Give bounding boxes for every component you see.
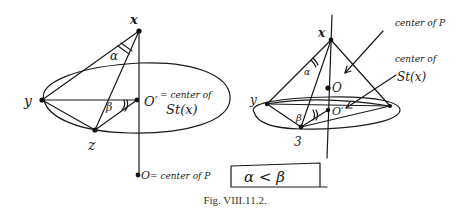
figure-caption: Fig. VIII.11.2. [0,194,470,206]
left-label-x: x [129,12,138,27]
left-point-y [39,97,44,102]
left-point-oprime [135,98,140,103]
left-oprime-note-1: = center of [160,90,213,100]
right-edge-x-z [301,40,331,127]
right-label-y: y [249,93,257,107]
boxed-inequality: α < β [231,163,327,187]
right-point-rim [388,104,392,108]
right-note-center-st-2: St(x) [397,70,426,84]
right-note-center-st-1: center of [395,54,438,64]
left-point-x [136,28,141,33]
right-point-z [299,125,304,130]
right-label-beta: β [295,112,302,123]
left-edge-x-z [95,31,139,130]
left-edge-y-z [42,100,95,130]
inequality-text: α < β [244,168,285,186]
left-o-note: = center of P [150,171,211,181]
right-point-oprime [326,108,330,112]
right-note-center-p: center of P [395,18,446,28]
right-beta-arc [313,110,315,120]
left-label-oprime: O′ [144,94,158,109]
right-label-oprime: O′ [332,105,344,118]
right-diagram: x y 3 α β O O′ center of P center of St(… [249,15,446,158]
right-label-x: x [317,26,326,40]
left-label-alpha: α [110,49,118,63]
right-ellipse-st-x [253,97,400,129]
right-point-x [329,38,334,43]
right-point-y [265,102,269,106]
left-oprime-note-2: St(x) [166,102,198,117]
left-label-beta: β [105,101,112,114]
figure-viii-11-2: x y z α β O′ = center of St(x) O = cente… [0,0,470,217]
right-beta-arc-2 [316,110,318,120]
right-label-o: O [332,81,342,95]
left-diagram: x y z α β O′ = center of St(x) O = cente… [23,12,230,182]
left-edge-x-y [42,31,139,100]
left-beta-arc-2 [125,100,128,111]
right-edge-x-y [267,40,331,104]
right-arrow-center-p [345,31,383,73]
left-label-z: z [87,137,96,153]
left-label-y: y [23,93,33,109]
left-point-z [92,127,97,132]
left-label-o: O [141,169,150,182]
left-point-o [136,173,141,178]
right-edge-x-rim [331,40,390,106]
right-point-o [325,85,330,90]
right-label-alpha: α [304,67,310,77]
right-label-z: 3 [294,135,302,149]
